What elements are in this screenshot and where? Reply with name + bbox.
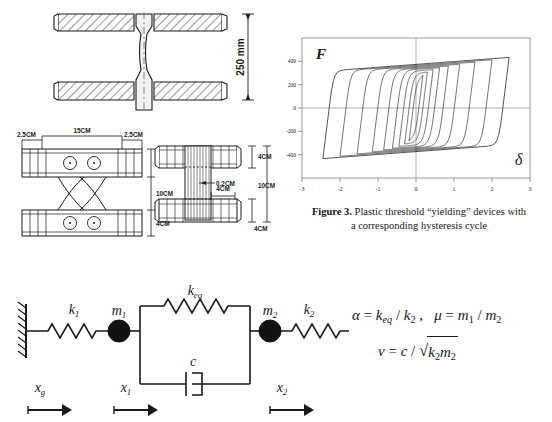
- mass-m1: m1: [108, 303, 130, 342]
- chart-ylabel: F: [315, 46, 326, 62]
- chart-x-tick: 1: [453, 186, 456, 192]
- spring-k1: k1: [26, 302, 116, 338]
- displacement-x2: x2: [270, 380, 314, 416]
- spring-keq-label: keq: [188, 283, 203, 300]
- device-front-view: 0.2CM 4CM 4CM 10CM 4CM: [155, 126, 280, 240]
- figure-caption-line1: Plastic threshold “yielding” devices wit…: [352, 206, 526, 217]
- chart-x-tick: 3: [529, 186, 532, 192]
- chart-y-tick: 200: [288, 82, 297, 88]
- dimension-250mm: 250 mm: [235, 14, 254, 100]
- figure-caption: Figure 3. Plastic threshold “yielding” d…: [288, 205, 550, 233]
- front-dim-middle-label: 10CM: [258, 182, 275, 189]
- equation-alpha-mu: α = keq / k2 , μ = m1 / m2: [352, 300, 548, 335]
- mass-m1-sub: 1: [122, 310, 127, 320]
- chart-x-tick: -3: [300, 186, 305, 192]
- hysteresis-chart: 4002000-200-400 -3-2-10123 F δ: [282, 32, 550, 204]
- displacement-xg: xg: [28, 380, 72, 416]
- front-dim-core-width-label: 4CM: [216, 185, 230, 192]
- displacement-x1-label: x1: [120, 380, 132, 397]
- damper-c-label: c: [190, 354, 197, 369]
- spring-k1-label: k1: [69, 302, 80, 319]
- parallel-branch: keq c: [130, 283, 260, 396]
- spring-keq-sub: eq: [194, 290, 203, 300]
- dimension-250mm-label: 250 mm: [235, 38, 246, 75]
- parameter-equations: α = keq / k2 , μ = m1 / m2 ν = c / k2m2: [352, 300, 548, 371]
- chart-x-tick: 0: [415, 186, 418, 192]
- spring-k2-sub: 2: [310, 309, 315, 319]
- device-section-view: 250 mm: [52, 4, 262, 112]
- chart-y-tick: -200: [286, 128, 296, 134]
- displacement-x1-sub: 1: [127, 387, 132, 397]
- chart-x-tick-labels: -3-2-10123: [300, 178, 532, 192]
- plan-waist: [58, 177, 106, 210]
- hourglass-core: [136, 12, 152, 111]
- spring-k1-sub: 1: [75, 309, 80, 319]
- front-dim-bottom-plate-label: 4CM: [254, 225, 268, 232]
- plan-dim-mid: 15CM: [73, 127, 90, 134]
- displacement-xg-label: xg: [34, 380, 46, 397]
- displacement-x2-label: x2: [276, 380, 288, 397]
- mass-m2-label: m2: [263, 303, 278, 320]
- figure-caption-label: Figure 3.: [312, 206, 352, 217]
- displacement-x1: x1: [114, 380, 158, 416]
- fixed-wall: [18, 302, 26, 358]
- plan-bottom-plate: [22, 210, 142, 236]
- device-plan-view: 2.5CM 15CM 2.5CM: [14, 122, 164, 240]
- chart-x-tick: -1: [376, 186, 381, 192]
- displacement-x2-sub: 2: [283, 387, 288, 397]
- displacement-xg-sub: g: [41, 387, 46, 397]
- front-dim-core-width: 4CM: [211, 185, 235, 200]
- front-dim-top-plate-label: 4CM: [258, 153, 272, 160]
- equation-nu: ν = c / k2m2: [352, 335, 548, 371]
- plan-top-dimensions: 2.5CM 15CM 2.5CM: [17, 127, 143, 149]
- chart-xlabel: δ: [515, 151, 523, 168]
- displacement-arrows: xg x1 x2: [28, 380, 314, 416]
- chart-y-tick: 400: [288, 58, 297, 64]
- chart-x-tick: -2: [338, 186, 343, 192]
- plan-dim-right: 2.5CM: [124, 131, 143, 138]
- plan-dim-left: 2.5CM: [17, 131, 36, 138]
- chart-y-tick: 0: [293, 105, 296, 111]
- chart-y-tick: -400: [286, 152, 296, 158]
- chart-x-tick: 2: [491, 186, 494, 192]
- mass-m1-label: m1: [112, 303, 127, 320]
- front-right-dimensions: 4CM 10CM 4CM: [248, 146, 275, 232]
- figure-caption-line2: a corresponding hysteresis cycle: [288, 219, 550, 233]
- spring-k2-label: k2: [304, 302, 315, 319]
- two-dof-model-diagram: k1 m1 keq c m2 k2 xg: [4, 288, 349, 420]
- spring-k2: k2: [281, 302, 349, 338]
- mass-m2: m2: [259, 303, 281, 342]
- mass-m2-sub: 2: [273, 310, 278, 320]
- plan-top-plate: [22, 149, 142, 177]
- chart-y-tick-labels: 4002000-200-400: [286, 58, 302, 157]
